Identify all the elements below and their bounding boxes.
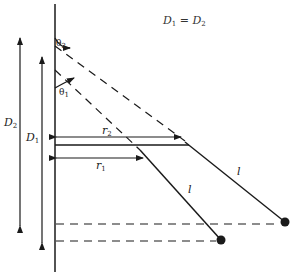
theta2-label: θ2	[56, 39, 66, 50]
pendulum-diagram	[0, 0, 295, 276]
d2-label: D2	[4, 117, 17, 130]
long-pendulum-bob	[281, 218, 290, 227]
theta1-arc	[55, 78, 74, 88]
r2-label: r2	[102, 125, 112, 138]
short-pendulum-bob	[217, 236, 226, 245]
d1-label: D1	[26, 132, 39, 145]
short-pendulum-string	[140, 150, 221, 240]
short-length-label: l	[188, 184, 192, 195]
r1-label: r1	[96, 160, 106, 173]
long-pendulum-string	[185, 142, 285, 222]
dashed-line-theta2	[55, 46, 185, 141]
long-length-label: l	[237, 166, 241, 177]
dashed-line-theta1	[55, 70, 140, 150]
equation-label: D1 = D2	[163, 14, 206, 28]
theta1-label: θ1	[59, 88, 69, 99]
